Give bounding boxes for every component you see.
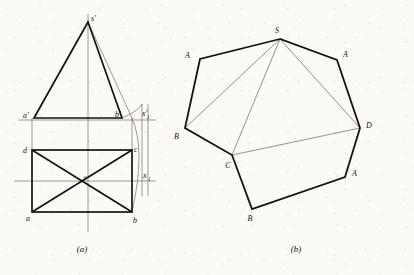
label-c: C bbox=[225, 161, 231, 170]
development-view-group: S A B C B A D A (b) bbox=[174, 26, 372, 254]
label-axis-top-subscript: 1 bbox=[148, 176, 151, 182]
label-a-left: A bbox=[184, 51, 190, 60]
fold-line-s-c bbox=[232, 39, 280, 155]
front-view-outline bbox=[34, 22, 122, 118]
label-apex-s: S bbox=[275, 26, 279, 35]
label-b-front: b' bbox=[115, 110, 121, 119]
label-b-left: B bbox=[174, 132, 179, 141]
label-axis-front-subscript: 1 bbox=[147, 114, 150, 120]
technical-drawing-figure: s' a' b' x' 1 d c s x 1 a b (a) bbox=[0, 0, 414, 275]
right-arc-connector-upper bbox=[122, 104, 142, 118]
fold-line-s-d bbox=[280, 39, 360, 128]
caption-a: (a) bbox=[77, 244, 88, 254]
right-arc-connector bbox=[132, 118, 139, 212]
label-d: D bbox=[365, 121, 372, 130]
fold-line-s-bleft bbox=[185, 39, 280, 128]
label-c-top: c bbox=[134, 145, 138, 154]
label-apex-front: s' bbox=[91, 14, 96, 23]
label-a-front: a' bbox=[23, 111, 29, 120]
true-length-edge-line bbox=[88, 22, 132, 118]
descriptive-geometry-drawing: s' a' b' x' 1 d c s x 1 a b (a) bbox=[0, 0, 414, 275]
development-boundary bbox=[185, 39, 360, 209]
label-b-bottom: B bbox=[248, 214, 253, 223]
construction-lines bbox=[14, 14, 156, 232]
label-b-top: b bbox=[133, 216, 137, 225]
front-triangle bbox=[34, 22, 122, 118]
label-axis-top: x bbox=[142, 171, 147, 180]
development-outline bbox=[185, 39, 360, 209]
label-a-top: a bbox=[26, 214, 30, 223]
projection-view-group: s' a' b' x' 1 d c s x 1 a b (a) bbox=[14, 14, 156, 254]
fold-line-c-d bbox=[232, 128, 360, 155]
caption-b: (b) bbox=[291, 244, 302, 254]
label-axis-front-group: x' 1 bbox=[141, 109, 150, 120]
label-a-right-lower: A bbox=[351, 169, 357, 178]
label-s-top: s bbox=[84, 174, 86, 180]
label-axis-top-group: x 1 bbox=[142, 171, 151, 182]
label-d-top: d bbox=[23, 146, 28, 155]
label-a-right-upper: A bbox=[342, 50, 348, 59]
